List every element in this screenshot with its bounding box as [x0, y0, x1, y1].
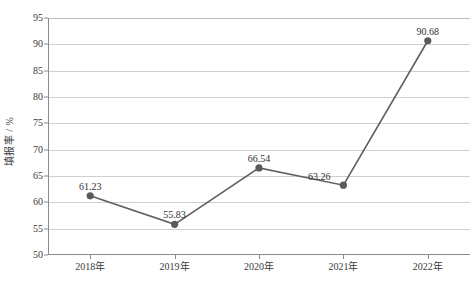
x-tick-label: 2022年 — [413, 262, 443, 272]
y-tick-label: 70 — [33, 145, 43, 155]
data-point-marker — [424, 37, 431, 44]
x-tick-label: 2018年 — [75, 262, 105, 272]
data-point-marker — [340, 182, 347, 189]
data-point-label: 61.23 — [79, 182, 102, 192]
y-tick-label: 80 — [33, 92, 43, 102]
data-point-label: 66.54 — [248, 154, 271, 164]
y-tick-label: 85 — [33, 66, 43, 76]
y-tick-label: 90 — [33, 39, 43, 49]
y-tick-label: 60 — [33, 197, 43, 207]
line-chart: 填报率 / % 50556065707580859095 2018年2019年2… — [0, 0, 474, 283]
x-tick-label: 2020年 — [244, 262, 274, 272]
data-point-marker — [171, 221, 178, 228]
y-tick-label: 65 — [33, 171, 43, 181]
plot-area: 50556065707580859095 2018年2019年2020年2021… — [48, 18, 470, 255]
series-polyline — [90, 41, 428, 225]
y-tick-label: 55 — [33, 224, 43, 234]
y-tick-label: 75 — [33, 118, 43, 128]
y-tick-label: 50 — [33, 250, 43, 260]
data-point-marker — [87, 192, 94, 199]
series-line — [48, 18, 470, 255]
data-point-marker — [255, 164, 262, 171]
x-tick-label: 2019年 — [160, 262, 190, 272]
data-point-label: 63.26 — [308, 172, 331, 182]
x-tick-mark — [90, 255, 91, 259]
x-tick-mark — [428, 255, 429, 259]
x-tick-label: 2021年 — [328, 262, 358, 272]
x-tick-mark — [175, 255, 176, 259]
y-tick-label: 95 — [33, 13, 43, 23]
y-axis-title: 填报率 / % — [0, 0, 16, 283]
data-point-label: 55.83 — [163, 210, 186, 220]
x-tick-mark — [259, 255, 260, 259]
x-tick-mark — [343, 255, 344, 259]
data-point-label: 90.68 — [417, 27, 440, 37]
